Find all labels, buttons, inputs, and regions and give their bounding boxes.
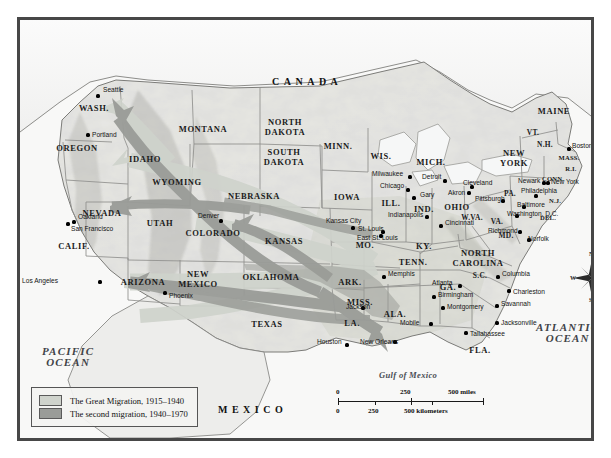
city-label-akron: Akron	[448, 190, 465, 197]
state-label-north-dakota: NORTHDAKOTA	[265, 118, 305, 137]
map-figure: CANADAMEXICOPACIFICOCEANATLANTICOCEANGul…	[0, 0, 611, 458]
city-label-denver: Denver	[198, 213, 219, 220]
state-label-wash: WASH.	[79, 104, 109, 114]
state-label-r-i: R.I.	[565, 165, 576, 172]
scale-km-250: 250	[368, 407, 379, 415]
scale-tick	[411, 398, 412, 405]
city-label-los-angeles: Los Angeles	[22, 278, 58, 285]
city-dot-newark	[542, 181, 545, 184]
city-label-charleston: Charleston	[513, 289, 545, 296]
state-label-new-york: NEWYORK	[500, 149, 528, 168]
state-label-south-dakota: SOUTHDAKOTA	[264, 148, 304, 167]
city-dot-montgomery	[441, 306, 444, 309]
country-label-mexico: MEXICO	[218, 405, 287, 415]
state-label-calif: CALIF.	[58, 242, 89, 252]
city-label-gary: Gary	[420, 192, 434, 199]
city-dot-jacksonville	[495, 321, 498, 324]
city-label-atlanta: Atlanta	[432, 280, 453, 287]
city-label-mobile: Mobile	[400, 320, 419, 327]
state-label-ky: KY.	[416, 242, 432, 252]
compass-south: S	[589, 297, 592, 303]
city-dot-denver	[219, 219, 222, 222]
state-label-s-c: S.C.	[473, 272, 487, 280]
state-label-mass: MASS.	[559, 154, 580, 161]
state-label-montana: MONTANA	[179, 125, 227, 135]
scale-tick	[375, 401, 376, 405]
city-label-richmond: Richmond	[488, 228, 518, 235]
city-dot-oakland	[72, 220, 75, 223]
city-label-cleveland: Cleveland	[463, 180, 492, 187]
ocean-label-atlantic: ATLANTICOCEAN	[536, 322, 594, 344]
city-label-san-francisco: San Francisco	[71, 226, 113, 233]
city-label-jackson: Jackson	[346, 304, 370, 311]
legend-label-1: The second migration, 1940–1970	[70, 409, 188, 419]
compass-rose: N E S W	[568, 248, 594, 306]
city-label-new-orleans: New Orleans	[360, 339, 398, 346]
city-label-savannah: Savannah	[501, 301, 531, 308]
state-label-idaho: IDAHO	[129, 155, 161, 165]
city-dot-columbia	[496, 275, 499, 278]
scale-tick	[432, 401, 433, 405]
city-label-indianapolis: Indianapolis	[388, 212, 423, 219]
compass-west: W	[570, 275, 576, 281]
city-dot-chicago	[406, 188, 409, 191]
city-label-milwaukee: Milwaukee	[372, 171, 403, 178]
city-label-washington-d-c: Washington, D.C.	[507, 211, 558, 218]
state-label-n-j: N.J.	[549, 197, 561, 204]
scale-bar: 0 250 500 miles 0 250 500 kilometers	[338, 398, 484, 405]
state-label-wyoming: WYOMING	[152, 178, 202, 188]
state-label-oregon: OREGON	[56, 144, 97, 154]
city-label-montgomery: Montgomery	[447, 304, 484, 311]
map-legend: The Great Migration, 1915–1940The second…	[31, 387, 198, 427]
scale-miles-500: 500 miles	[448, 388, 476, 396]
state-label-new-mexico: NEWMEXICO	[178, 270, 218, 289]
city-dot-savannah	[495, 304, 498, 307]
legend-item-0: The Great Migration, 1915–1940	[39, 395, 188, 406]
state-label-kansas: KANSAS	[265, 237, 303, 247]
city-label-pittsburgh: Pittsburgh	[475, 196, 505, 203]
city-label-memphis: Memphis	[388, 271, 415, 278]
city-label-st-louis: St. Louis	[358, 226, 384, 233]
city-label-cincinnati: Cincinnati	[445, 220, 474, 227]
state-label-north-carolina: NORTHCAROLINA	[452, 249, 503, 268]
city-dot-milwaukee	[408, 175, 411, 178]
city-label-birmingham: Birmingham	[438, 292, 473, 299]
state-label-la: LA.	[344, 319, 360, 329]
city-label-detroit: Detroit	[422, 174, 441, 181]
city-dot-memphis	[382, 275, 385, 278]
state-label-tenn: TENN.	[399, 258, 428, 268]
city-dot-new-york	[546, 181, 549, 184]
city-dot-akron	[467, 191, 470, 194]
state-label-mo: MO.	[356, 241, 375, 251]
map-plate: CANADAMEXICOPACIFICOCEANATLANTICOCEANGul…	[20, 20, 591, 438]
city-dot-phoenix	[163, 291, 166, 294]
city-label-portland: Portland	[92, 132, 117, 139]
state-label-oklahoma: OKLAHOMA	[242, 273, 299, 283]
city-dot-gary	[412, 196, 415, 199]
city-dot-atlanta	[458, 284, 461, 287]
city-dot-tallahassee	[464, 331, 467, 334]
legend-swatch-0	[39, 395, 62, 406]
city-dot-boston	[567, 147, 570, 150]
country-label-canada: CANADA	[272, 77, 342, 87]
state-label-iowa: IOWA	[334, 193, 360, 203]
state-label-texas: TEXAS	[251, 320, 282, 330]
state-label-colorado: COLORADO	[186, 229, 241, 239]
city-label-east-st-louis: East St. Louis	[357, 235, 398, 242]
city-label-philadelphia: Philadelphia	[521, 188, 557, 195]
scale-km-0: 0	[336, 407, 340, 415]
city-label-houston: Houston	[317, 339, 342, 346]
city-label-new-york: New York	[551, 179, 579, 186]
city-dot-houston	[345, 343, 348, 346]
city-label-norfolk: Norfolk	[528, 236, 549, 243]
city-label-columbia: Columbia	[502, 271, 530, 278]
city-dot-los-angeles	[98, 280, 101, 283]
ocean-label-pacific: PACIFICOCEAN	[42, 346, 94, 368]
city-label-kansas-city: Kansas City	[326, 218, 361, 225]
city-dot-indianapolis	[425, 215, 428, 218]
state-label-pa: PA.	[504, 190, 516, 198]
city-label-newark: Newark	[518, 178, 540, 185]
state-label-maine: MAINE	[538, 107, 570, 117]
scale-miles-250: 250	[400, 388, 411, 396]
city-dot-mobile	[429, 322, 432, 325]
